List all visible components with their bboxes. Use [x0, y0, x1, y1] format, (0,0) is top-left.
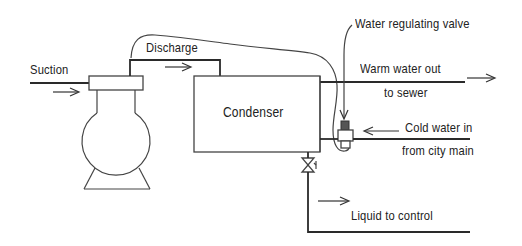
shutoff-valve-icon	[302, 158, 316, 172]
discharge-line	[130, 60, 220, 76]
water-regulating-valve-label: Water regulating valve	[355, 17, 470, 30]
warm-water-label-line2: to sewer	[384, 86, 428, 99]
warm-water-arrow-icon	[467, 74, 495, 82]
warm-water-label-line1: Warm water out	[360, 62, 441, 75]
suction-arrow-icon	[53, 88, 79, 96]
discharge-arrow-icon	[165, 63, 191, 71]
liquid-arrow-icon	[318, 197, 349, 205]
cold-water-arrow-icon	[364, 127, 399, 135]
valve-pointer-arrow-icon	[340, 25, 352, 119]
compressor-icon	[82, 76, 150, 189]
discharge-label: Discharge	[146, 41, 198, 54]
suction-label: Suction	[30, 63, 68, 76]
cold-water-label-line1: Cold water in	[405, 121, 472, 134]
valve-icon	[338, 121, 353, 148]
cold-water-label-line2: from city main	[402, 144, 474, 157]
condenser-label: Condenser	[223, 105, 283, 119]
liquid-to-control-label: Liquid to control	[351, 209, 433, 222]
